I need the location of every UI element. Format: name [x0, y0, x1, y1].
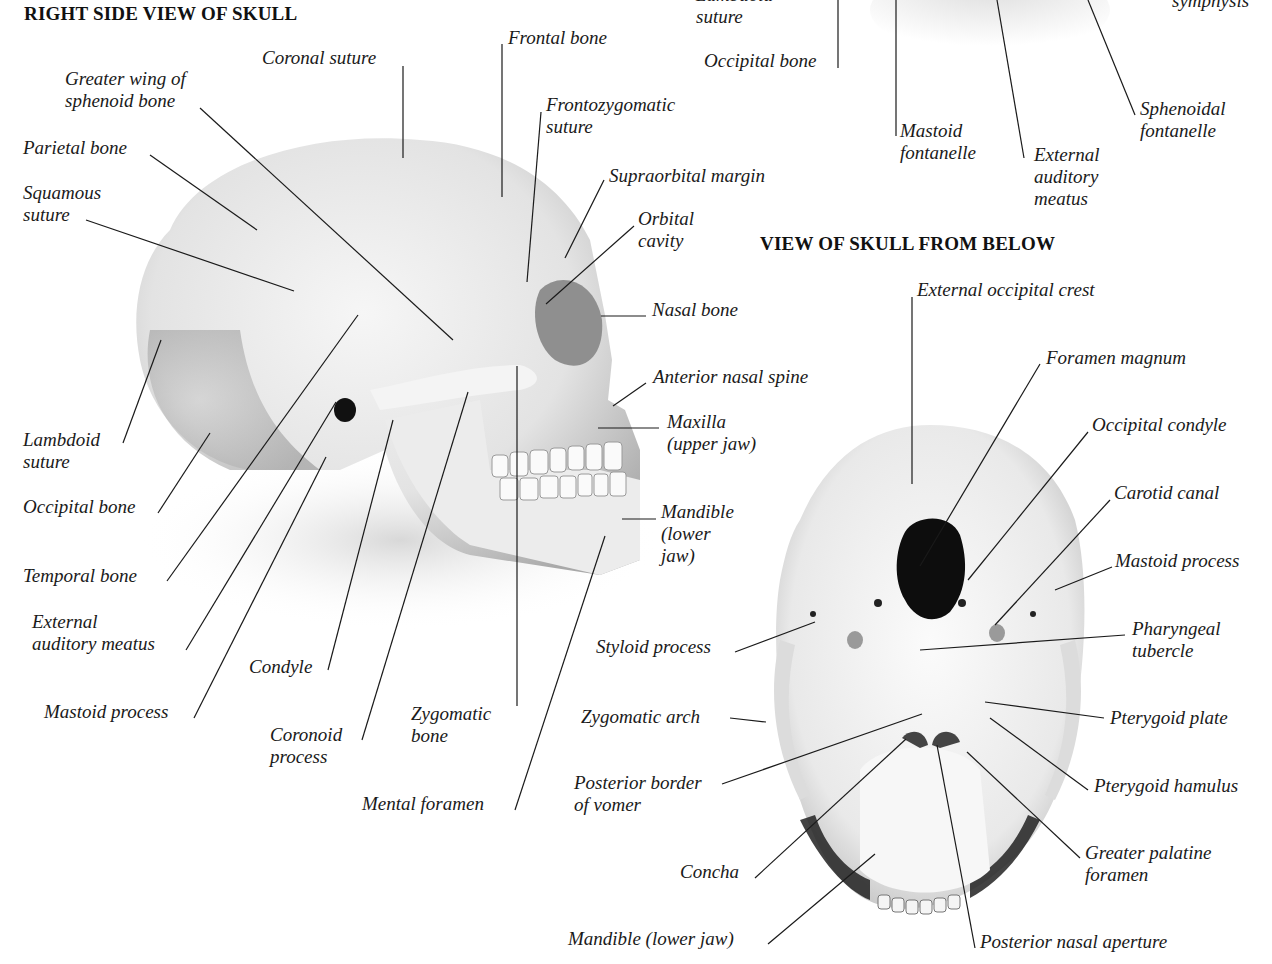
- label-lambdoid-suture-partial: Lambdoid suture: [696, 0, 773, 28]
- label-zygomatic-bone: Zygomatic bone: [411, 703, 491, 747]
- label-frontal-bone: Frontal bone: [508, 27, 607, 49]
- label-lambdoid-suture: Lambdoid suture: [23, 429, 100, 473]
- label-pterygoid-plate: Pterygoid plate: [1110, 707, 1228, 729]
- label-occipital-bone-top: Occipital bone: [704, 50, 816, 72]
- label-occipital-bone: Occipital bone: [23, 496, 135, 518]
- side-view-skull: [136, 138, 660, 630]
- label-external-auditory-meatus: External auditory meatus: [32, 611, 155, 655]
- below-view-title: VIEW OF SKULL FROM BELOW: [760, 233, 1055, 255]
- label-mastoid-fontanelle: Mastoid fontanelle: [900, 120, 976, 164]
- label-foramen-magnum: Foramen magnum: [1046, 347, 1186, 369]
- label-greater-palatine-foramen: Greater palatine foramen: [1085, 842, 1211, 886]
- label-squamous-suture: Squamous suture: [23, 182, 101, 226]
- label-posterior-nasal-aperture: Posterior nasal aperture: [980, 931, 1167, 953]
- label-mastoid-process-side: Mastoid process: [44, 701, 168, 723]
- label-styloid-process: Styloid process: [596, 636, 711, 658]
- label-pterygoid-hamulus: Pterygoid hamulus: [1094, 775, 1238, 797]
- label-pharyngeal-tubercle: Pharyngeal tubercle: [1132, 618, 1221, 662]
- label-condyle: Condyle: [249, 656, 312, 678]
- label-symphysis-partial: symphysis: [1172, 0, 1249, 12]
- label-orbital-cavity: Orbital cavity: [638, 208, 694, 252]
- label-anterior-nasal-spine: Anterior nasal spine: [653, 366, 808, 388]
- label-mastoid-process-below: Mastoid process: [1115, 550, 1239, 572]
- infant-skull-partial: [870, 0, 1110, 55]
- label-concha: Concha: [680, 861, 739, 883]
- label-external-occipital-crest: External occipital crest: [917, 279, 1095, 301]
- label-greater-wing-sphenoid: Greater wing of sphenoid bone: [65, 68, 186, 112]
- below-view-skull: [774, 425, 1084, 914]
- label-sphenoidal-fontanelle: Sphenoidal fontanelle: [1140, 98, 1226, 142]
- anatomy-figure: RIGHT SIDE VIEW OF SKULL VIEW OF SKULL F…: [0, 0, 1272, 964]
- label-frontozygomatic-suture: Frontozygomatic suture: [546, 94, 675, 138]
- label-supraorbital-margin: Supraorbital margin: [609, 165, 765, 187]
- label-mandible-side: Mandible (lower jaw): [661, 501, 734, 567]
- label-mental-foramen: Mental foramen: [362, 793, 484, 815]
- side-view-title: RIGHT SIDE VIEW OF SKULL: [24, 3, 297, 25]
- label-nasal-bone: Nasal bone: [652, 299, 738, 321]
- label-carotid-canal: Carotid canal: [1114, 482, 1219, 504]
- label-maxilla: Maxilla (upper jaw): [667, 411, 756, 455]
- label-external-auditory-meatus-top: External auditory meatus: [1034, 144, 1099, 210]
- label-temporal-bone: Temporal bone: [23, 565, 137, 587]
- label-zygomatic-arch: Zygomatic arch: [581, 706, 700, 728]
- label-occipital-condyle: Occipital condyle: [1092, 414, 1227, 436]
- label-coronoid-process: Coronoid process: [270, 724, 342, 768]
- label-mandible-below: Mandible (lower jaw): [568, 928, 734, 950]
- label-parietal-bone: Parietal bone: [23, 137, 127, 159]
- label-coronal-suture: Coronal suture: [262, 47, 376, 69]
- label-posterior-border-vomer: Posterior border of vomer: [574, 772, 702, 816]
